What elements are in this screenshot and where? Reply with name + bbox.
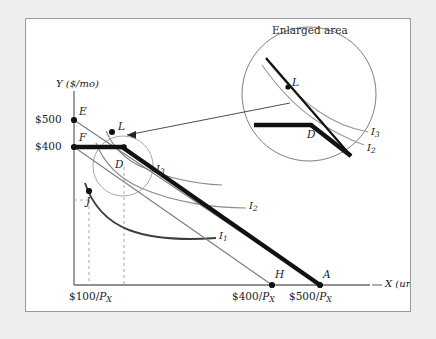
y-tick-label-400: $400	[35, 141, 62, 152]
budget-lines	[74, 120, 320, 285]
inset-point-label-l: L	[292, 77, 299, 88]
inset-title: Enlarged area	[272, 25, 348, 36]
point-label-f: F	[79, 132, 86, 143]
point-label-j: J	[86, 196, 90, 207]
point-e	[71, 117, 77, 123]
point-label-e: E	[79, 106, 87, 117]
point-h	[269, 282, 275, 288]
curve-i2	[96, 143, 246, 208]
x-tick-100-sub: X	[106, 295, 112, 304]
inset-curve-i2-sub: 2	[371, 146, 376, 155]
inset-point-d	[309, 123, 314, 128]
point-label-a: A	[323, 269, 331, 280]
y-axis-title: Y ($/mo)	[56, 79, 99, 89]
inset-circle	[242, 27, 376, 161]
x-tick-500-sub: X	[326, 295, 332, 304]
curve-i2-sub: 2	[253, 204, 258, 213]
figure-root: Y ($/mo) X (units/mo) $500 $400 $100/PX …	[0, 0, 436, 339]
y-tick-label-500: $500	[35, 114, 62, 125]
point-label-d: D	[115, 159, 123, 170]
x-tick-label-500px: $500/PX	[289, 291, 332, 303]
point-label-h: H	[275, 269, 284, 280]
figure-panel: Y ($/mo) X (units/mo) $500 $400 $100/PX …	[25, 18, 411, 312]
inset-curve-label-i2: I2	[367, 143, 376, 154]
point-label-l: L	[118, 121, 125, 132]
point-j	[86, 188, 92, 194]
x-tick-label-100px: $100/PX	[69, 291, 112, 303]
curve-label-i3: I3	[156, 164, 165, 175]
curve-i3-sub: 3	[160, 167, 165, 176]
inset-point-l	[285, 84, 290, 89]
curve-label-i1: I1	[219, 231, 228, 242]
budget-line-fh	[74, 147, 272, 285]
bold-segment-da	[122, 147, 320, 285]
inset-group	[242, 27, 376, 161]
x-tick-500-prefix: $500/	[289, 290, 319, 302]
diagram-canvas	[26, 19, 410, 311]
x-tick-400-prefix: $400/	[232, 290, 262, 302]
point-a	[317, 282, 323, 288]
point-d	[121, 144, 127, 150]
x-tick-400-sub: X	[269, 295, 275, 304]
point-f	[71, 144, 77, 150]
callout-arrow-line	[127, 103, 290, 135]
x-tick-100-prefix: $100/	[69, 290, 99, 302]
inset-curve-i3-sub: 3	[375, 130, 380, 139]
callout-arrow-head	[127, 131, 136, 139]
curve-label-i2: I2	[249, 201, 258, 212]
callout-arrow-group	[127, 103, 290, 139]
x-tick-label-400px: $400/PX	[232, 291, 275, 303]
inset-curve-label-i3: I3	[371, 127, 380, 138]
point-l	[109, 129, 115, 135]
curve-i1-sub: 1	[223, 234, 228, 243]
inset-point-label-d: D	[307, 129, 315, 140]
inset-budget-sloped	[266, 58, 351, 156]
x-axis-title: X (units/mo)	[385, 279, 411, 289]
